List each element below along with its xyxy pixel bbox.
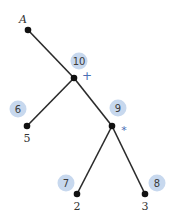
leaf-label-3: 3: [142, 200, 149, 213]
root-node: [25, 27, 32, 34]
leaf-node-3: [142, 191, 149, 198]
badge-10: 10: [71, 53, 88, 70]
badge-9: 9: [110, 100, 127, 117]
badge-9-text: 9: [115, 103, 121, 114]
leaf-label-2: 2: [74, 200, 81, 213]
tree-diagram: A 10 6 9 7 8 + * 5 2 3: [0, 0, 175, 220]
star-mark-icon: *: [121, 124, 127, 137]
internal-node-10: [71, 75, 78, 82]
internal-node-9: [109, 123, 116, 130]
edge-a-10: [28, 30, 74, 78]
plus-mark-icon: +: [82, 69, 92, 83]
edge-10-9: [74, 78, 112, 126]
edge-10-5: [27, 78, 74, 126]
badge-8: 8: [149, 175, 166, 192]
leaf-label-5: 5: [24, 132, 31, 145]
edge-9-3: [112, 126, 145, 194]
edge-9-2: [77, 126, 112, 194]
badge-7: 7: [58, 175, 75, 192]
badge-10-text: 10: [73, 56, 86, 67]
badge-7-text: 7: [63, 178, 69, 189]
badge-6-text: 6: [15, 104, 21, 115]
badge-6: 6: [10, 101, 27, 118]
root-label: A: [18, 13, 27, 26]
leaf-node-5: [24, 123, 31, 130]
leaf-node-2: [74, 191, 81, 198]
badge-8-text: 8: [154, 178, 160, 189]
